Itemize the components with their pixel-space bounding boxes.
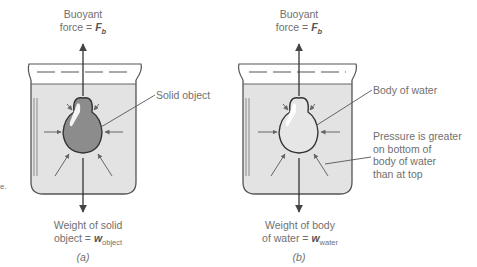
caption-a: (a) (70, 251, 96, 264)
subscript: water (320, 238, 338, 247)
label-line: on bottom of (373, 143, 462, 156)
label-line: Weight of solid (43, 219, 133, 232)
label-line: Pressure is greater (373, 130, 462, 143)
weight-label-b: Weight of body of water = wwater (250, 219, 350, 249)
label-line: of water = wwater (250, 232, 350, 250)
subscript: b (102, 27, 107, 36)
label-line: than at top (373, 168, 462, 181)
buoyant-force-label-a: Buoyant force = Fb (58, 8, 108, 38)
caption-b: (b) (286, 251, 312, 264)
symbol-w: w (311, 232, 319, 244)
subscript: b (318, 27, 323, 36)
label-line: force = Fb (274, 21, 324, 39)
buoyant-force-label-b: Buoyant force = Fb (274, 8, 324, 38)
beaker-a (28, 44, 155, 212)
label-line: Weight of body (250, 219, 350, 232)
label-text: force = (60, 21, 95, 33)
label-line: Buoyant (274, 8, 324, 21)
beaker-b (239, 44, 373, 212)
weight-label-a: Weight of solid object = wobject (43, 219, 133, 249)
label-text: of water = (262, 232, 311, 244)
symbol-w: w (94, 232, 102, 244)
edge-text-fragment: e. (0, 181, 7, 194)
label-text: object = (54, 232, 94, 244)
callout-solid-object: Solid object (156, 89, 210, 102)
label-line: Buoyant (58, 8, 108, 21)
label-line: body of water (373, 155, 462, 168)
label-line: object = wobject (43, 232, 133, 250)
subscript: object (102, 238, 122, 247)
label-text: force = (276, 21, 311, 33)
callout-pressure: Pressure is greater on bottom of body of… (373, 130, 462, 180)
callout-body-of-water: Body of water (373, 84, 437, 97)
label-line: force = Fb (58, 21, 108, 39)
